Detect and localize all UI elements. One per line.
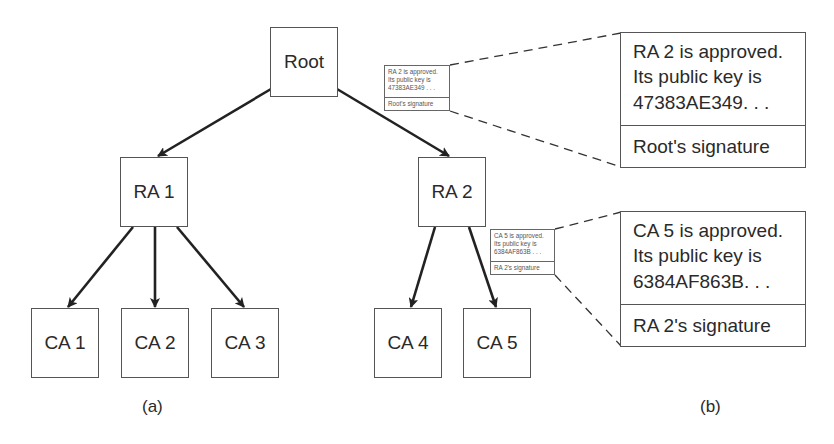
cert-small-ra2-signature: Root's signature xyxy=(385,98,449,110)
zoom-line-cert1-top xyxy=(450,33,621,65)
zoom-line-cert2-top xyxy=(555,212,621,229)
node-ca5-label: CA 5 xyxy=(476,332,517,354)
node-ca2-label: CA 2 xyxy=(134,332,175,354)
cert-large-ca5: CA 5 is approved. Its public key is 6384… xyxy=(620,211,806,347)
edge-root-ra1 xyxy=(158,89,271,156)
node-root-label: Root xyxy=(284,51,324,73)
cert-small-ra2-body: RA 2 is approved. Its public key is 4738… xyxy=(385,66,449,98)
node-ra2: RA 2 xyxy=(418,157,486,227)
edge-ra1-ca1 xyxy=(68,227,133,307)
cert-large-ra2-body: RA 2 is approved. Its public key is 4738… xyxy=(621,33,805,126)
edge-ra2-ca4 xyxy=(411,227,435,307)
cert-small-ca5-signature: RA 2's signature xyxy=(491,262,554,274)
cert-large-ca5-line-2: Its public key is xyxy=(633,243,793,268)
edge-ra1-ca3 xyxy=(177,227,244,307)
cert-small-ca5-line-1: CA 5 is approved. xyxy=(494,232,551,240)
node-ca1-label: CA 1 xyxy=(44,332,85,354)
cert-large-ra2-line-2: Its public key is xyxy=(633,64,793,89)
cert-small-ca5-line-2: Its public key is xyxy=(494,240,551,248)
node-ra1-label: RA 1 xyxy=(133,181,174,203)
node-ca4: CA 4 xyxy=(374,308,442,378)
cert-large-ra2-line-1: RA 2 is approved. xyxy=(633,39,793,64)
cert-small-ra2-line-2: Its public key is xyxy=(388,76,446,84)
node-ca3-label: CA 3 xyxy=(224,332,265,354)
cert-large-ca5-line-1: CA 5 is approved. xyxy=(633,218,793,243)
caption-a: (a) xyxy=(142,397,163,417)
cert-small-ca5-line-3: 6384AF863B . . . xyxy=(494,248,551,256)
node-ra1: RA 1 xyxy=(120,157,188,227)
cert-small-ca5: CA 5 is approved. Its public key is 6384… xyxy=(490,229,555,275)
node-ca4-label: CA 4 xyxy=(387,332,428,354)
cert-small-ra2-line-3: 47383AE349 . . . xyxy=(388,84,446,92)
cert-small-ra2: RA 2 is approved. Its public key is 4738… xyxy=(384,65,450,111)
node-ca1: CA 1 xyxy=(31,308,99,378)
caption-b: (b) xyxy=(700,397,721,417)
node-root: Root xyxy=(270,27,338,97)
cert-large-ra2-signature: Root's signature xyxy=(621,126,805,167)
node-ca2: CA 2 xyxy=(121,308,189,378)
node-ca5: CA 5 xyxy=(463,308,531,378)
node-ca3: CA 3 xyxy=(211,308,279,378)
cert-large-ca5-signature: RA 2's signature xyxy=(621,305,805,346)
cert-large-ra2: RA 2 is approved. Its public key is 4738… xyxy=(620,32,806,168)
zoom-line-cert2-bottom xyxy=(555,275,621,346)
cert-large-ca5-line-3: 6384AF863B. . . xyxy=(633,269,793,294)
cert-small-ca5-body: CA 5 is approved. Its public key is 6384… xyxy=(491,230,554,262)
cert-small-ra2-line-1: RA 2 is approved. xyxy=(388,68,446,76)
cert-large-ca5-body: CA 5 is approved. Its public key is 6384… xyxy=(621,212,805,305)
node-ra2-label: RA 2 xyxy=(431,181,472,203)
cert-large-ra2-line-3: 47383AE349. . . xyxy=(633,90,793,115)
